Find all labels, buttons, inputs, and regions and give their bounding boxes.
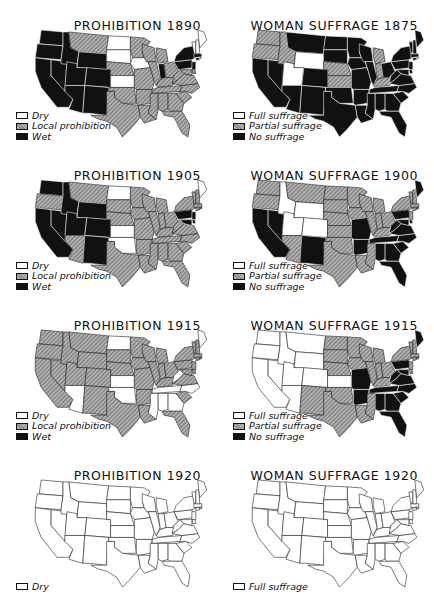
state-nd: [107, 186, 131, 200]
state-ma: [194, 204, 202, 208]
state-ar: [136, 89, 152, 105]
state-wy: [294, 52, 324, 70]
state-or: [35, 44, 63, 60]
state-ct: [413, 58, 417, 61]
state-wa: [256, 330, 280, 346]
state-wa: [256, 30, 280, 46]
legend-swatch-white: [16, 262, 28, 269]
legend-swatch-black: [233, 433, 245, 440]
state-al: [375, 543, 385, 561]
panel-prohibition-1920: PROHIBITION 1920 Dry: [0, 450, 217, 599]
state-wy: [77, 52, 107, 70]
legend-label: Partial suffrage: [249, 271, 322, 282]
state-fl: [379, 411, 407, 437]
state-nd: [107, 336, 131, 350]
state-al: [158, 393, 168, 411]
state-wa: [256, 480, 280, 496]
legend-swatch-white: [233, 112, 245, 119]
legend-swatch-black: [233, 283, 245, 290]
state-al: [158, 93, 168, 111]
state-ct: [196, 358, 200, 361]
state-ma: [411, 204, 419, 208]
state-or: [252, 194, 280, 210]
legend-swatch-hatch: [233, 273, 245, 280]
state-ct: [413, 358, 417, 361]
state-ct: [196, 58, 200, 61]
state-tn: [152, 235, 182, 243]
legend-swatch-hatch: [233, 123, 245, 130]
legend-label: Partial suffrage: [249, 121, 322, 132]
state-ar: [136, 539, 152, 555]
legend-label: No suffrage: [249, 432, 304, 443]
panel-woman-suffrage-1920: WOMAN SUFFRAGE 1920 Full suffrage: [217, 450, 434, 599]
state-ct: [196, 208, 200, 211]
state-ar: [353, 539, 369, 555]
state-sd: [324, 500, 348, 514]
state-mi: [373, 48, 385, 64]
state-ny: [174, 496, 196, 512]
state-de: [409, 520, 413, 524]
panel-woman-suffrage-1915: WOMAN SUFFRAGE 1915 Full suffragePartial…: [217, 300, 434, 450]
state-ks: [328, 526, 352, 538]
map-legend: Full suffragePartial suffrageNo suffrage: [233, 111, 322, 143]
state-mi: [373, 198, 385, 214]
state-co: [85, 368, 111, 388]
state-ks: [111, 76, 135, 88]
legend-item: No suffrage: [233, 432, 322, 443]
legend-swatch-white: [16, 583, 28, 590]
state-al: [158, 243, 168, 261]
legend-label: Local prohibition: [32, 121, 111, 132]
state-sd: [107, 50, 131, 64]
state-nj: [192, 512, 196, 520]
state-ny: [391, 346, 413, 362]
legend-item: Wet: [16, 132, 111, 143]
state-sd: [107, 500, 131, 514]
state-co: [85, 518, 111, 538]
state-tn: [369, 235, 399, 243]
legend-swatch-hatch: [16, 423, 28, 430]
map-legend: Dry: [16, 582, 49, 593]
state-nj: [192, 212, 196, 220]
state-wy: [77, 352, 107, 370]
legend-swatch-white: [233, 412, 245, 419]
state-nd: [324, 36, 348, 50]
legend-swatch-black: [16, 283, 28, 290]
state-ks: [111, 526, 135, 538]
state-de: [409, 70, 413, 74]
legend-item: Wet: [16, 432, 111, 443]
state-fl: [162, 561, 190, 587]
state-al: [375, 93, 385, 111]
state-wa: [256, 180, 280, 196]
legend-item: Partial suffrage: [233, 271, 322, 282]
state-sd: [324, 350, 348, 364]
state-fl: [162, 261, 190, 287]
legend-item: No suffrage: [233, 282, 322, 293]
state-ny: [174, 346, 196, 362]
state-ma: [194, 354, 202, 358]
state-nj: [409, 362, 413, 370]
state-nj: [192, 62, 196, 70]
state-sd: [107, 200, 131, 214]
legend-label: Local prohibition: [32, 271, 111, 282]
map-legend: Full suffrage: [233, 582, 308, 593]
state-de: [192, 370, 196, 374]
state-ks: [111, 226, 135, 238]
legend-item: Partial suffrage: [233, 121, 322, 132]
legend-label: Dry: [32, 582, 49, 593]
state-wa: [39, 480, 63, 496]
us-map: [33, 476, 208, 591]
legend-label: Local prohibition: [32, 421, 111, 432]
state-al: [375, 243, 385, 261]
panel-woman-suffrage-1900: WOMAN SUFFRAGE 1900 Full suffragePartial…: [217, 150, 434, 300]
legend-item: Partial suffrage: [233, 421, 322, 432]
state-mi: [156, 198, 168, 214]
state-mi: [373, 498, 385, 514]
state-co: [302, 68, 328, 88]
map-legend: Full suffragePartial suffrageNo suffrage: [233, 261, 322, 293]
state-ct: [413, 208, 417, 211]
state-ma: [411, 354, 419, 358]
state-fl: [162, 411, 190, 437]
legend-item: Local prohibition: [16, 421, 111, 432]
state-ks: [111, 376, 135, 388]
state-ny: [391, 496, 413, 512]
